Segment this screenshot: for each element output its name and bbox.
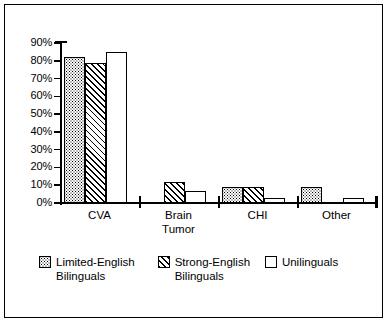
- y-axis-tick-label: 10%: [10, 179, 52, 190]
- bar-group: [64, 43, 127, 203]
- bar: [301, 187, 322, 203]
- legend-label-line: Limited-English: [56, 255, 135, 269]
- bar-group: [143, 43, 206, 203]
- legend-label: Unilinguals: [282, 255, 338, 269]
- x-axis-category-label-line: CHI: [218, 208, 297, 222]
- y-axis-tick-label: 80%: [10, 55, 52, 66]
- y-axis-tick: [54, 42, 62, 44]
- legend-item-limited-english-bilinguals: Limited-EnglishBilinguals: [39, 255, 152, 283]
- bar: [64, 57, 85, 203]
- x-axis-category-label: BrainTumor: [139, 208, 218, 236]
- y-axis-tick: [54, 131, 62, 133]
- legend-label-line: Unilinguals: [282, 255, 338, 269]
- x-axis-category-label-line: Other: [297, 208, 376, 222]
- y-axis-tick-label: 30%: [10, 144, 52, 155]
- y-axis-tick: [54, 167, 62, 169]
- bar-group: [222, 43, 285, 203]
- legend-label-line: Bilinguals: [175, 269, 250, 283]
- bar: [106, 52, 127, 203]
- legend-swatch-white-icon: [265, 256, 277, 268]
- legend-label-line: Bilinguals: [56, 269, 135, 283]
- bar: [343, 198, 364, 203]
- bar: [222, 187, 243, 203]
- y-axis-tick: [54, 96, 62, 98]
- plot-area: [60, 43, 376, 203]
- y-axis-tick-label: 70%: [10, 73, 52, 84]
- y-axis-tick-label: 50%: [10, 108, 52, 119]
- x-axis-divider-tick: [139, 196, 141, 208]
- x-axis-category-label: CHI: [218, 208, 297, 222]
- x-axis-divider-tick: [218, 196, 220, 208]
- legend-label: Strong-EnglishBilinguals: [175, 255, 250, 283]
- y-axis-tick: [54, 60, 62, 62]
- bar-group: [301, 43, 364, 203]
- y-axis-tick: [54, 184, 62, 186]
- legend-swatch-stipple-icon: [39, 256, 51, 268]
- x-axis-category-label-line: Brain: [139, 208, 218, 222]
- x-axis-category-label-line: Tumor: [139, 222, 218, 236]
- y-axis-tick: [54, 202, 62, 204]
- y-axis-tick-label: 0%: [10, 197, 52, 208]
- x-axis-category-label: Other: [297, 208, 376, 222]
- y-axis-tick-label: 60%: [10, 90, 52, 101]
- x-axis-category-label: CVA: [60, 208, 139, 222]
- legend-swatch-hatch-icon: [158, 256, 170, 268]
- bar: [185, 191, 206, 203]
- x-axis-divider-tick: [376, 196, 378, 208]
- x-axis-divider-tick: [297, 196, 299, 208]
- legend-label-line: Strong-English: [175, 255, 250, 269]
- legend-item-strong-english-bilinguals: Strong-EnglishBilinguals: [158, 255, 261, 283]
- y-axis-tick-label: 40%: [10, 126, 52, 137]
- chart-legend: Limited-EnglishBilinguals Strong-English…: [35, 255, 355, 283]
- chart-figure: 0%10%20%30%40%50%60%70%80%90% CVABrainTu…: [4, 4, 383, 318]
- legend-label: Limited-EnglishBilinguals: [56, 255, 135, 283]
- y-axis-tick-label: 20%: [10, 161, 52, 172]
- x-axis-category-label-line: CVA: [60, 208, 139, 222]
- y-axis-tick: [54, 113, 62, 115]
- bar: [85, 63, 106, 203]
- y-axis-tick: [54, 78, 62, 80]
- y-axis-tick-label: 90%: [10, 37, 52, 48]
- legend-item-unilinguals: Unilinguals: [265, 255, 355, 269]
- bar: [243, 187, 264, 203]
- bar: [264, 198, 285, 203]
- y-axis-tick: [54, 149, 62, 151]
- bar: [164, 182, 185, 203]
